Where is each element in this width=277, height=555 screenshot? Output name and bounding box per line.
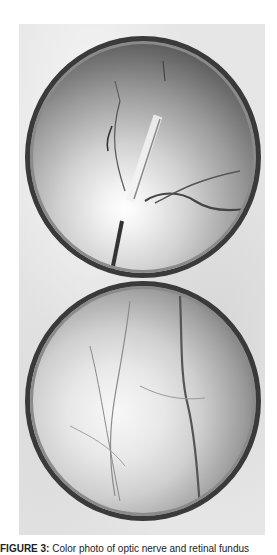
fundus-photo-bottom: [25, 281, 261, 521]
fundus-photo-top: [25, 36, 261, 278]
caption-label: FIGURE 3:: [0, 543, 49, 554]
figure-caption: FIGURE 3: Color photo of optic nerve and…: [0, 543, 277, 555]
caption-text: Color photo of optic nerve and retinal f…: [49, 543, 249, 554]
fundus-ring-bottom: [30, 286, 256, 516]
figure-panel: [19, 24, 265, 535]
fundus-ring-top: [30, 41, 256, 273]
